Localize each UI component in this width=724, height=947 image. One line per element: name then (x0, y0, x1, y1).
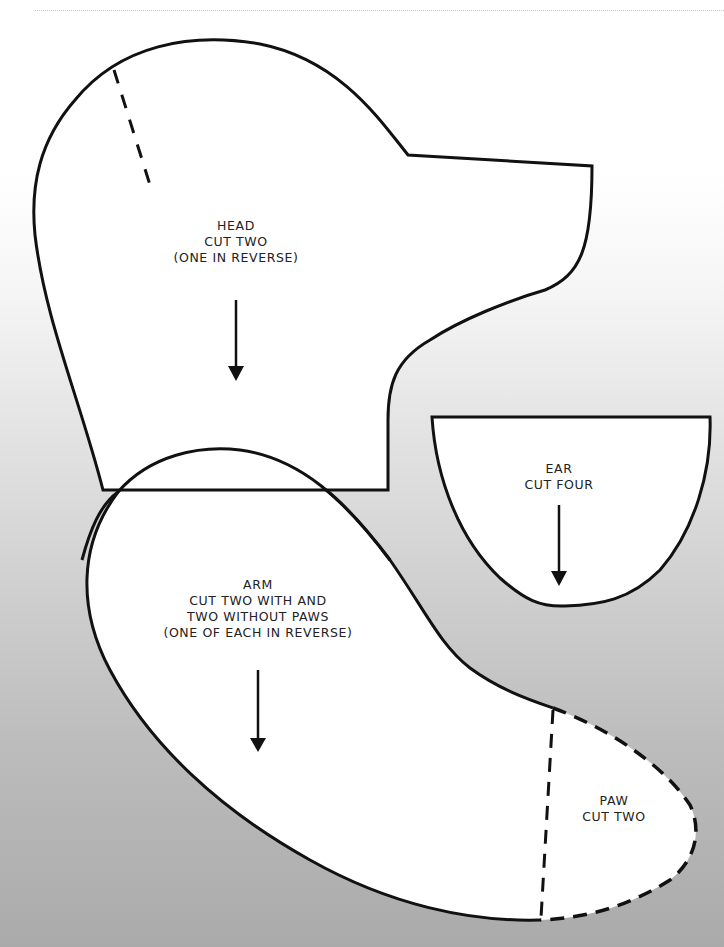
ear-piece (432, 417, 710, 606)
head-instruction-1: CUT TWO (174, 234, 299, 250)
ear-instruction-1: CUT FOUR (524, 477, 593, 493)
arm-name: ARM (163, 577, 352, 593)
ear-label: EAR CUT FOUR (524, 461, 593, 493)
paw-label: PAW CUT TWO (582, 793, 646, 825)
arm-instruction-1: CUT TWO WITH AND (163, 593, 352, 609)
ear-outline (432, 417, 710, 606)
arm-label: ARM CUT TWO WITH AND TWO WITHOUT PAWS (O… (163, 577, 352, 641)
arm-instruction-3: (ONE OF EACH IN REVERSE) (163, 625, 352, 641)
head-label: HEAD CUT TWO (ONE IN REVERSE) (174, 218, 299, 266)
arm-instruction-2: TWO WITHOUT PAWS (163, 609, 352, 625)
head-name: HEAD (174, 218, 299, 234)
paw-instruction-1: CUT TWO (582, 809, 646, 825)
head-instruction-2: (ONE IN REVERSE) (174, 250, 299, 266)
paw-name: PAW (582, 793, 646, 809)
ear-name: EAR (524, 461, 593, 477)
